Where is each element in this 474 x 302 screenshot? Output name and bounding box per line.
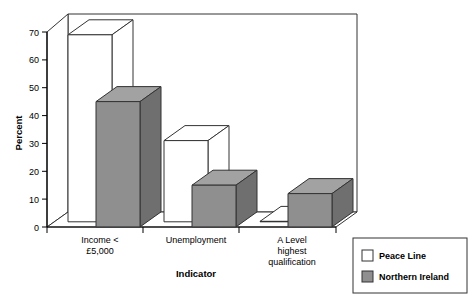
legend-label-northern-ireland: Northern Ireland <box>379 272 449 282</box>
bar-front-face <box>192 185 236 227</box>
y-axis-title: Percent <box>13 115 24 151</box>
y-tick-label-20: 20 <box>29 167 39 177</box>
y-tick-label-30: 30 <box>29 139 39 149</box>
y-tick-label-10: 10 <box>29 195 39 205</box>
category-label-unemployment: Unemployment <box>166 235 227 245</box>
bar-front-face <box>96 102 140 227</box>
bar-side-face <box>140 87 161 227</box>
y-tick-label-0: 0 <box>34 223 39 233</box>
category-label-income-line1: Income < <box>81 235 118 245</box>
x-category-labels: Income < £5,000 Unemployment A Level hig… <box>81 235 315 267</box>
bar-chart-3d: 0 10 20 30 40 50 60 70 Percent <box>0 0 474 302</box>
legend-box <box>353 238 467 293</box>
x-axis-title: Indicator <box>176 268 216 279</box>
y-tick-label-40: 40 <box>29 111 39 121</box>
bar-income-northern-ireland[interactable] <box>96 87 161 227</box>
legend-swatch-northern-ireland <box>362 271 373 282</box>
category-label-income-line2: £5,000 <box>86 246 114 256</box>
legend-label-peace-line: Peace Line <box>379 251 426 261</box>
legend: Peace Line Northern Ireland <box>353 238 467 293</box>
y-axis: 0 10 20 30 40 50 60 70 Percent <box>13 28 47 233</box>
x-axis <box>47 227 336 233</box>
legend-entry-peace-line[interactable]: Peace Line <box>362 250 426 261</box>
category-label-alevel-line1: A Level <box>277 235 307 245</box>
plot-left-wall <box>47 14 68 227</box>
chart-root: 0 10 20 30 40 50 60 70 Percent <box>0 0 474 302</box>
bar-front-face <box>288 194 332 227</box>
x-axis-ticks <box>47 227 336 233</box>
y-tick-label-50: 50 <box>29 83 39 93</box>
legend-swatch-peace-line <box>362 250 373 261</box>
category-label-alevel-line3: qualification <box>268 257 316 267</box>
y-axis-ticks <box>42 32 47 227</box>
bar-unemployment-northern-ireland[interactable] <box>192 170 257 227</box>
category-label-alevel-line2: highest <box>277 246 307 256</box>
y-tick-label-60: 60 <box>29 55 39 65</box>
y-tick-label-70: 70 <box>29 28 39 38</box>
